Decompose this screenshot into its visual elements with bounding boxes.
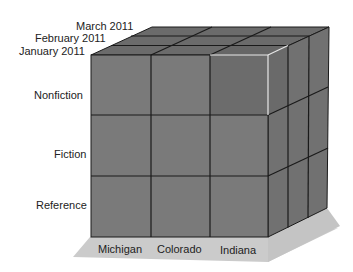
region-label-michigan: Michigan xyxy=(98,243,142,255)
time-label-march: March 2011 xyxy=(76,20,133,32)
category-label-fiction: Fiction xyxy=(54,148,86,160)
region-label-colorado: Colorado xyxy=(157,243,202,255)
region-label-indiana: Indiana xyxy=(220,244,257,256)
category-label-reference: Reference xyxy=(36,199,87,211)
olap-cube-diagram: March 2011 February 2011 January 2011 No… xyxy=(0,0,353,272)
category-label-nonfiction: Nonfiction xyxy=(34,89,83,101)
highlighted-cell-side xyxy=(268,46,288,116)
time-label-january: January 2011 xyxy=(19,45,85,57)
highlighted-cell-front xyxy=(210,55,268,115)
time-label-february: February 2011 xyxy=(35,32,106,44)
